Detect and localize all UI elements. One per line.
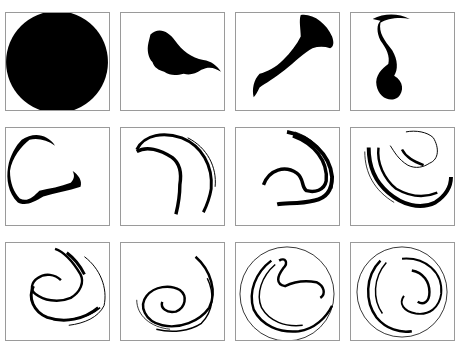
panel-8 bbox=[350, 127, 455, 226]
panel-10 bbox=[120, 242, 225, 341]
filament-shape bbox=[236, 13, 339, 110]
panel-12 bbox=[350, 242, 455, 341]
panel-2 bbox=[120, 12, 225, 111]
c-curl-shape bbox=[6, 128, 109, 225]
panel-6 bbox=[120, 127, 225, 226]
multi-layer-spiral-shape bbox=[6, 243, 109, 340]
circular-spiral-shape bbox=[236, 243, 339, 340]
panel-1 bbox=[5, 12, 110, 111]
mixed-filaments-shape bbox=[351, 243, 454, 340]
tight-spiral-shape bbox=[121, 243, 224, 340]
panel-3 bbox=[235, 12, 340, 111]
blob-shape bbox=[121, 13, 224, 110]
spiral-arms-shape bbox=[236, 128, 339, 225]
folded-spiral-shape bbox=[351, 128, 454, 225]
panel-7 bbox=[235, 127, 340, 226]
hook-arc-shape bbox=[121, 128, 224, 225]
panel-4 bbox=[350, 12, 455, 111]
panel-5 bbox=[5, 127, 110, 226]
panel-9 bbox=[5, 242, 110, 341]
disk-shape bbox=[6, 13, 109, 110]
panel-11 bbox=[235, 242, 340, 341]
s-filament-shape bbox=[351, 13, 454, 110]
